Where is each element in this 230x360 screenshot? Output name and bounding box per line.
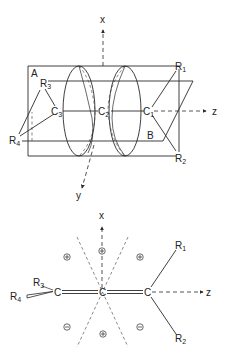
y-axis-label: y [76,190,81,201]
wedge-bond-r4 [27,292,53,299]
plane-b-label: B [147,130,154,141]
atom-c2-label: C2 [98,106,109,118]
double-bond-right [107,291,143,294]
minus-sign-icon [64,324,70,330]
plus-sign-icon [64,254,70,260]
atom-c-center: C [99,287,106,298]
top-figure: x y z C3 C2 C1 A B [9,14,217,201]
atom-c-right: C [144,287,151,298]
double-bond-left [62,291,98,294]
allene-orbital-diagram: x y z C3 C2 C1 A B [0,0,230,360]
y-axis-arrow [82,145,94,188]
z-axis-label-bottom: z [206,287,211,298]
r2-label-bottom: R2 [175,333,186,345]
atom-c3-label: C3 [51,106,62,118]
x-axis-label-bottom: x [99,210,104,221]
x-axis-label: x [100,14,105,25]
r1-label-bottom: R1 [175,240,186,252]
plus-sign-icon [137,254,143,260]
bond-c3-r4 [20,114,54,136]
minus-sign-icon [99,248,105,254]
bond-r2 [151,297,176,334]
r4-label-bottom: R4 [10,291,21,303]
z-axis-label: z [212,106,217,117]
r3-label: R3 [40,78,51,90]
atom-c-left: C [54,287,61,298]
minus-sign-icon [137,324,143,330]
bond-c3-r3 [45,89,55,106]
bond-c1-r1 [152,71,176,107]
bond-c1-r2 [152,115,176,151]
r1-label: R1 [175,61,186,73]
edge-r3-r4 [19,90,40,134]
bond-r1 [151,250,176,287]
plus-sign-icon [100,331,106,337]
r4-label: R4 [9,135,20,147]
plane-a-label: A [31,68,38,79]
r2-label: R2 [175,153,186,165]
bottom-figure: x z C C C R1 R2 R3 R4 [10,210,211,347]
r3-label-bottom: R3 [33,277,44,289]
